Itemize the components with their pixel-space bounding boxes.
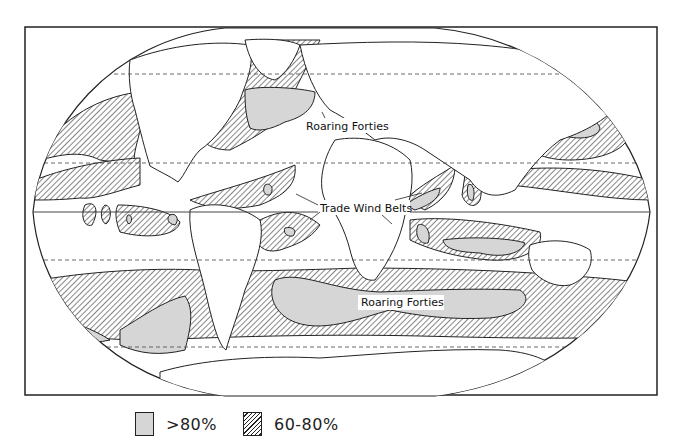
legend-item-60-80: 60-80% bbox=[243, 412, 339, 436]
legend: >80% 60-80% bbox=[135, 412, 365, 436]
legend-swatch-solid bbox=[135, 412, 154, 436]
label-trade-wind-belts: Trade Wind Belts bbox=[319, 202, 412, 215]
legend-swatch-hatch bbox=[243, 412, 262, 436]
label-roaring-forties-south: Roaring Forties bbox=[361, 296, 444, 309]
label-roaring-forties-north: Roaring Forties bbox=[306, 120, 389, 133]
legend-label: >80% bbox=[166, 415, 217, 434]
world-map: Roaring Forties Trade Wind Belts Roaring… bbox=[0, 0, 683, 447]
legend-item-over-80: >80% bbox=[135, 412, 217, 436]
legend-label: 60-80% bbox=[274, 415, 339, 434]
